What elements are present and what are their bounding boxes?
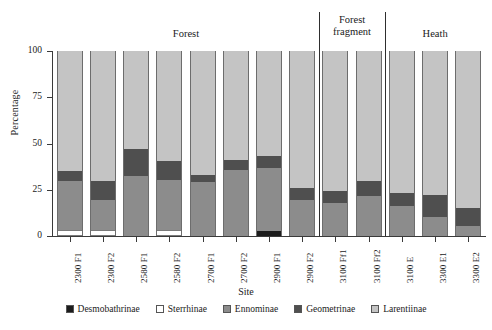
- x-tick-label: 2700 F1: [207, 253, 216, 283]
- segment-ennominae: [357, 196, 381, 236]
- segment-geometrinae: [456, 208, 480, 226]
- y-tick-mark: [47, 97, 52, 98]
- x-tick-mark: [269, 237, 270, 242]
- x-tick-mark: [302, 237, 303, 242]
- segment-larentiinae: [357, 51, 381, 181]
- segment-geometrinae: [91, 181, 115, 200]
- segment-larentiinae: [390, 51, 414, 193]
- segment-geometrinae: [257, 156, 281, 167]
- x-tick-label: 2580 F2: [173, 253, 182, 283]
- y-tick-mark: [47, 144, 52, 145]
- segment-larentiinae: [224, 51, 248, 160]
- segment-ennominae: [58, 181, 82, 230]
- x-tick-mark: [70, 237, 71, 242]
- segment-ennominae: [423, 217, 447, 236]
- segment-larentiinae: [124, 51, 148, 149]
- legend-swatch-icon: [223, 305, 231, 313]
- x-tick-mark: [468, 237, 469, 242]
- x-tick-mark: [136, 237, 137, 242]
- legend-item-sterrhinae: Sterrhinae: [156, 304, 207, 314]
- y-tick-label: 25: [12, 185, 42, 195]
- x-tick-mark: [402, 237, 403, 242]
- x-tick-label: 3100 E: [406, 257, 415, 283]
- legend-item-ennominae: Ennominae: [223, 304, 278, 314]
- plot-area: [53, 51, 485, 236]
- y-tick-label: 100: [12, 46, 42, 56]
- x-tick-label: 3300 E2: [472, 252, 481, 283]
- legend-swatch-icon: [371, 305, 379, 313]
- bar-2300-f2: [90, 51, 116, 236]
- x-tick-label: 2300 F1: [74, 253, 83, 283]
- segment-geometrinae: [390, 193, 414, 207]
- x-tick-mark: [435, 237, 436, 242]
- segment-ennominae: [224, 170, 248, 236]
- x-tick-mark: [236, 237, 237, 242]
- x-tick-label: 2900 F2: [306, 253, 315, 283]
- legend-label: Ennominae: [235, 304, 278, 314]
- segment-ennominae: [257, 168, 281, 232]
- segment-geometrinae: [357, 181, 381, 197]
- segment-larentiinae: [257, 51, 281, 156]
- segment-geometrinae: [157, 161, 181, 180]
- segment-ennominae: [124, 176, 148, 236]
- stacked-bar-chart: ForestForestfragmentHeath 0255075100 Per…: [0, 0, 492, 330]
- group-label: Heath: [385, 28, 485, 40]
- x-tick-mark: [335, 237, 336, 242]
- legend-swatch-icon: [156, 305, 164, 313]
- segment-ennominae: [323, 203, 347, 236]
- segment-larentiinae: [91, 51, 115, 181]
- segment-geometrinae: [290, 188, 314, 200]
- segment-ennominae: [456, 226, 480, 236]
- segment-geometrinae: [191, 175, 215, 182]
- segment-ennominae: [290, 200, 314, 236]
- segment-ennominae: [191, 182, 215, 236]
- chart-legend: DesmobathrinaeSterrhinaeEnnominaeGeometr…: [0, 304, 492, 314]
- y-axis-title: Percentage: [9, 63, 20, 163]
- segment-geometrinae: [58, 171, 82, 180]
- bar-2700-f2: [223, 51, 249, 236]
- segment-larentiinae: [456, 51, 480, 208]
- x-tick-label: 2300 F2: [107, 253, 116, 283]
- legend-label: Sterrhinae: [168, 304, 207, 314]
- x-tick-mark: [169, 237, 170, 242]
- legend-swatch-icon: [294, 305, 302, 313]
- segment-ennominae: [390, 206, 414, 236]
- bar-3100-ff2: [356, 51, 382, 236]
- bar-2700-f1: [190, 51, 216, 236]
- legend-swatch-icon: [66, 305, 74, 313]
- segment-larentiinae: [191, 51, 215, 175]
- legend-label: Larentiinae: [383, 304, 426, 314]
- segment-ennominae: [157, 180, 181, 230]
- legend-item-larentiinae: Larentiinae: [371, 304, 426, 314]
- bar-3300-e1: [422, 51, 448, 236]
- legend-label: Geometrinae: [306, 304, 355, 314]
- segment-geometrinae: [124, 149, 148, 176]
- x-tick-mark: [369, 237, 370, 242]
- y-tick-label: 0: [12, 231, 42, 241]
- bar-3100-e: [389, 51, 415, 236]
- bar-2580-f2: [156, 51, 182, 236]
- legend-item-desmobathrinae: Desmobathrinae: [66, 304, 140, 314]
- x-axis-title: Site: [0, 286, 492, 297]
- segment-larentiinae: [157, 51, 181, 161]
- legend-item-geometrinae: Geometrinae: [294, 304, 355, 314]
- segment-geometrinae: [323, 191, 347, 203]
- x-tick-label: 2700 F2: [240, 253, 249, 283]
- x-tick-label: 3300 E1: [439, 252, 448, 283]
- bar-2580-f1: [123, 51, 149, 236]
- group-label: Forest: [53, 28, 319, 40]
- x-tick-label: 3100 Ff2: [373, 249, 382, 283]
- x-tick-label: 2580 F1: [140, 253, 149, 283]
- x-tick-mark: [203, 237, 204, 242]
- y-tick-mark: [47, 190, 52, 191]
- segment-larentiinae: [323, 51, 347, 191]
- bar-2300-f1: [57, 51, 83, 236]
- bar-2900-f2: [289, 51, 315, 236]
- bar-3300-e2: [455, 51, 481, 236]
- bar-3100-ff1: [322, 51, 348, 236]
- x-tick-label: 2900 F1: [273, 253, 282, 283]
- y-tick-mark: [47, 51, 52, 52]
- bar-2900-f1: [256, 51, 282, 236]
- legend-label: Desmobathrinae: [78, 304, 140, 314]
- x-tick-label: 3100 Ff1: [339, 249, 348, 283]
